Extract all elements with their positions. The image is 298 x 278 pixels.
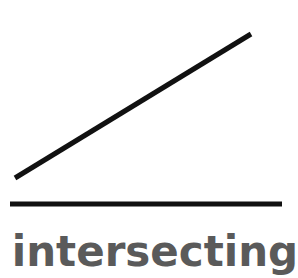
diagram-canvas: intersecting [0, 0, 298, 278]
diagram-label: intersecting [0, 228, 298, 276]
diagonal-line [15, 34, 251, 178]
